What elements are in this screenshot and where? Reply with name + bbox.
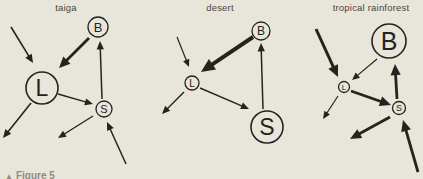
node-label-B-taiga: B: [94, 20, 103, 35]
arrowhead-L-out-tropical-rainforest: [323, 111, 330, 119]
food-web-diagram: BLSBLSBLS: [0, 0, 423, 179]
arrowhead-S-out-taiga: [58, 131, 67, 138]
arrow-S-out-tropical-rainforest: [358, 117, 390, 135]
arrow-L-out-desert: [166, 92, 184, 110]
node-label-S-tropical-rainforest: S: [396, 103, 402, 113]
caption-text: Figure 5: [16, 170, 55, 179]
arrow-S-out-taiga: [63, 116, 93, 135]
arrow-S-to-B-taiga: [100, 47, 102, 99]
arrowhead-in-to-S-tropical-rainforest: [401, 120, 411, 132]
arrow-L-to-S-tropical-rainforest: [351, 91, 382, 102]
arrow-L-out-taiga: [7, 103, 31, 133]
panel-title-taiga: taiga: [55, 2, 77, 13]
arrowhead-L-to-S-tropical-rainforest: [379, 97, 391, 107]
arrow-S-to-B-desert: [261, 49, 263, 109]
arrowhead-S-to-B-taiga: [97, 41, 104, 49]
node-label-S-desert: S: [259, 114, 274, 140]
caption-triangle-icon: ▲: [5, 172, 13, 179]
arrow-in-to-L-taiga: [11, 27, 30, 57]
arrowhead-in-to-L-taiga: [25, 54, 33, 63]
arrowhead-in-to-L-desert: [183, 59, 189, 67]
panel-title-tropical-rainforest: tropical rainforest: [333, 2, 410, 13]
arrow-in-to-L-desert: [177, 37, 187, 62]
node-label-B-desert: B: [257, 24, 265, 38]
arrow-L-to-S-desert: [200, 88, 243, 107]
arrow-L-to-S-taiga: [58, 94, 87, 102]
node-label-B-tropical-rainforest: B: [381, 27, 398, 55]
arrowhead-S-to-B-desert: [258, 43, 265, 51]
arrow-in-to-L-tropical-rainforest: [316, 29, 334, 68]
node-label-L-desert: L: [189, 78, 195, 89]
arrow-S-to-B-tropical-rainforest: [396, 73, 397, 99]
arrow-in-to-S-tropical-rainforest: [406, 129, 418, 172]
arrow-B-to-L-desert: [211, 37, 253, 65]
node-label-L-taiga: L: [36, 75, 49, 101]
panel-title-desert: desert: [206, 2, 234, 13]
arrow-L-out-tropical-rainforest: [326, 96, 338, 114]
arrowhead-S-to-B-tropical-rainforest: [391, 64, 401, 75]
arrow-B-to-L-taiga: [65, 38, 89, 62]
arrow-in-to-S-taiga: [110, 128, 126, 164]
figure-caption: ▲Figure 5: [5, 170, 55, 179]
arrowhead-L-to-S-taiga: [84, 98, 93, 105]
node-label-L-tropical-rainforest: L: [342, 83, 347, 92]
node-label-S-taiga: S: [100, 103, 107, 115]
arrow-B-to-L-tropical-rainforest: [356, 59, 377, 76]
figure-page: BLSBLSBLS taiga desert tropical rainfore…: [0, 0, 423, 179]
